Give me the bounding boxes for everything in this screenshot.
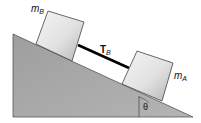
- angle-label: θ: [143, 102, 148, 112]
- block-a-label: mA: [174, 70, 187, 82]
- incline-diagram: mB TB mA θ: [0, 0, 201, 123]
- block-b-label: mB: [31, 3, 44, 15]
- tension-label: TB: [100, 44, 111, 56]
- diagram-graphic: [0, 0, 201, 123]
